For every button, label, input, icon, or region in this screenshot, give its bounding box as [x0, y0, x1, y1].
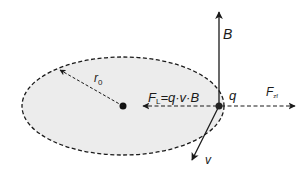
charge-label: q	[229, 88, 237, 103]
magnetic-field-label: B	[223, 26, 232, 42]
velocity-label: v	[205, 153, 212, 167]
charge-particle	[216, 103, 223, 110]
centrifugal-force-label: Fzf	[266, 85, 278, 99]
lorentz-force-label: FL=q·v·B	[148, 90, 199, 106]
lorentz-force-diagram: r0 B FL=q·v·B Fzf v q	[0, 0, 308, 169]
